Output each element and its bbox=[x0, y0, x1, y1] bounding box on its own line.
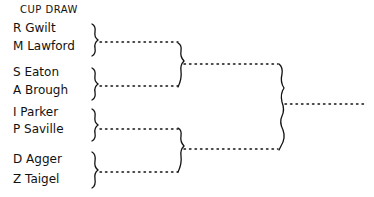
brace-icon bbox=[279, 64, 284, 150]
brace-icon bbox=[92, 24, 98, 56]
brace-icon bbox=[178, 43, 184, 87]
brace-icon bbox=[92, 152, 98, 188]
brace-icon bbox=[92, 109, 98, 141]
brace-icon bbox=[92, 68, 98, 100]
brace-icon bbox=[178, 128, 184, 172]
bracket-lines bbox=[0, 0, 374, 197]
